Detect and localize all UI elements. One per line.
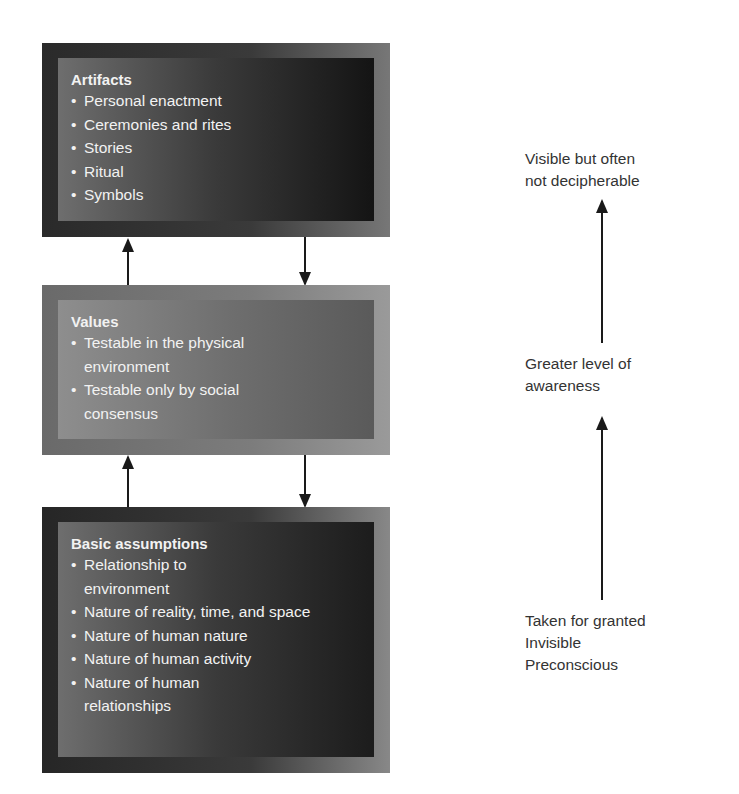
label-line: awareness — [525, 375, 631, 397]
artifacts-title: Artifacts — [71, 70, 364, 89]
arrow-up-icon — [127, 240, 129, 285]
list-item: Testable only by social consensus — [71, 378, 301, 425]
label-line: Preconscious — [525, 654, 646, 676]
label-line: not decipherable — [525, 170, 640, 192]
list-item: Nature of human relationships — [71, 671, 244, 718]
list-item: Ritual — [71, 160, 364, 184]
arrow-up-icon — [601, 201, 603, 343]
artifacts-box: Artifacts Personal enactment Ceremonies … — [42, 43, 390, 237]
label-line: Taken for granted — [525, 610, 646, 632]
arrow-down-icon — [304, 237, 306, 284]
list-item: Nature of human activity — [71, 647, 311, 671]
label-line: Visible but often — [525, 148, 640, 170]
label-line: Greater level of — [525, 353, 631, 375]
awareness-top-label: Visible but often not decipherable — [525, 148, 640, 192]
list-item: Symbols — [71, 183, 364, 207]
arrow-up-icon — [601, 418, 603, 600]
list-item: Stories — [71, 136, 364, 160]
label-line: Invisible — [525, 632, 646, 654]
list-item: Personal enactment — [71, 89, 364, 113]
awareness-bottom-label: Taken for granted Invisible Preconscious — [525, 610, 646, 676]
basic-assumptions-list: Relationship to environment Nature of re… — [71, 553, 311, 718]
list-item: Nature of human nature — [71, 624, 311, 648]
basic-assumptions-box: Basic assumptions Relationship to enviro… — [42, 507, 390, 773]
list-item: Ceremonies and rites — [71, 113, 364, 137]
values-list: Testable in the physical environment Tes… — [71, 331, 301, 425]
values-inner: Values Testable in the physical environm… — [58, 300, 374, 439]
arrow-up-icon — [127, 457, 129, 507]
values-title: Values — [71, 312, 364, 331]
artifacts-list: Personal enactment Ceremonies and rites … — [71, 89, 364, 207]
basic-assumptions-inner: Basic assumptions Relationship to enviro… — [58, 522, 374, 757]
list-item: Relationship to environment — [71, 553, 234, 600]
values-box: Values Testable in the physical environm… — [42, 285, 390, 455]
list-item: Testable in the physical environment — [71, 331, 301, 378]
awareness-middle-label: Greater level of awareness — [525, 353, 631, 397]
arrow-down-icon — [304, 455, 306, 506]
basic-assumptions-title: Basic assumptions — [71, 534, 364, 553]
artifacts-inner: Artifacts Personal enactment Ceremonies … — [58, 58, 374, 221]
list-item: Nature of reality, time, and space — [71, 600, 311, 624]
